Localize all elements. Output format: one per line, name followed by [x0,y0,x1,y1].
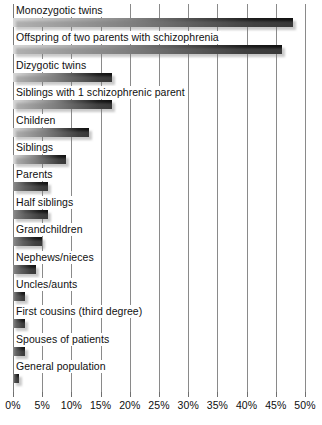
bar-row: Parents [13,168,305,195]
bar-row: Grandchildren [13,223,305,250]
bar [13,73,112,82]
bar-shadow [16,131,92,140]
bar-shadow [16,21,296,30]
bar [13,100,112,109]
bar-label: Grandchildren [15,223,85,236]
plot-area: Monozygotic twinsOffspring of two parent… [13,4,305,392]
bar-shadow [16,76,115,85]
x-tick-label: 50% [288,399,322,411]
bar-label: Monozygotic twins [15,4,105,17]
bar [13,319,25,328]
x-tick-mark [71,392,72,397]
bar-row: Siblings with 1 schizophrenic parent [13,86,305,113]
bar-shadow [16,268,39,277]
bar-label: General population [15,360,108,373]
bar-row: First cousins (third degree) [13,305,305,332]
bar-shadow [16,295,28,304]
bar-label: Half siblings [15,196,75,209]
bar-shadow [16,48,285,57]
bar [13,128,89,137]
bar [13,45,282,54]
bar-row: Children [13,114,305,141]
bar-row: Offspring of two parents with schizophre… [13,31,305,58]
x-tick-mark [217,392,218,397]
bar-shadow [16,185,51,194]
bar [13,292,25,301]
bar-label: Dizygotic twins [15,59,88,72]
bar-row: Dizygotic twins [13,59,305,86]
bar-label: Spouses of patients [15,333,111,346]
bar-row: Siblings [13,141,305,168]
bar-label: First cousins (third degree) [15,305,144,318]
bar-shadow [16,158,69,167]
bar-row: Half siblings [13,196,305,223]
bar-label: Parents [15,168,55,181]
bar [13,374,19,383]
bar-row: Uncles/aunts [13,278,305,305]
bar-label: Uncles/aunts [15,278,79,291]
x-axis: 0%5%10%15%20%25%30%35%40%45%50% [0,392,322,425]
bar [13,155,66,164]
bar-row: Monozygotic twins [13,4,305,31]
bar-label: Offspring of two parents with schizophre… [15,31,221,44]
x-tick-mark [188,392,189,397]
x-tick-mark [305,392,306,397]
bar [13,182,48,191]
bar [13,265,36,274]
x-tick-mark [42,392,43,397]
x-tick-mark [13,392,14,397]
bar-shadow [16,103,115,112]
bar-chart: Monozygotic twinsOffspring of two parent… [0,0,322,425]
bar-shadow [16,350,28,359]
bar-row: Spouses of patients [13,333,305,360]
gridline-50 [305,4,306,392]
bar-label: Children [15,114,58,127]
bar-row: General population [13,360,305,387]
bar-label: Nephews/nieces [15,251,96,264]
bar-label: Siblings [15,141,55,154]
bar [13,237,42,246]
bar-shadow [16,240,45,249]
x-tick-mark [130,392,131,397]
bar-row: Nephews/nieces [13,251,305,278]
bar [13,18,293,27]
bar-label: Siblings with 1 schizophrenic parent [15,86,187,99]
x-tick-mark [247,392,248,397]
x-tick-mark [276,392,277,397]
x-tick-mark [159,392,160,397]
bar [13,347,25,356]
bar-shadow [16,377,22,386]
bar-rows: Monozygotic twinsOffspring of two parent… [13,4,305,392]
x-tick-mark [101,392,102,397]
bar-shadow [16,322,28,331]
bar [13,210,48,219]
bar-shadow [16,213,51,222]
